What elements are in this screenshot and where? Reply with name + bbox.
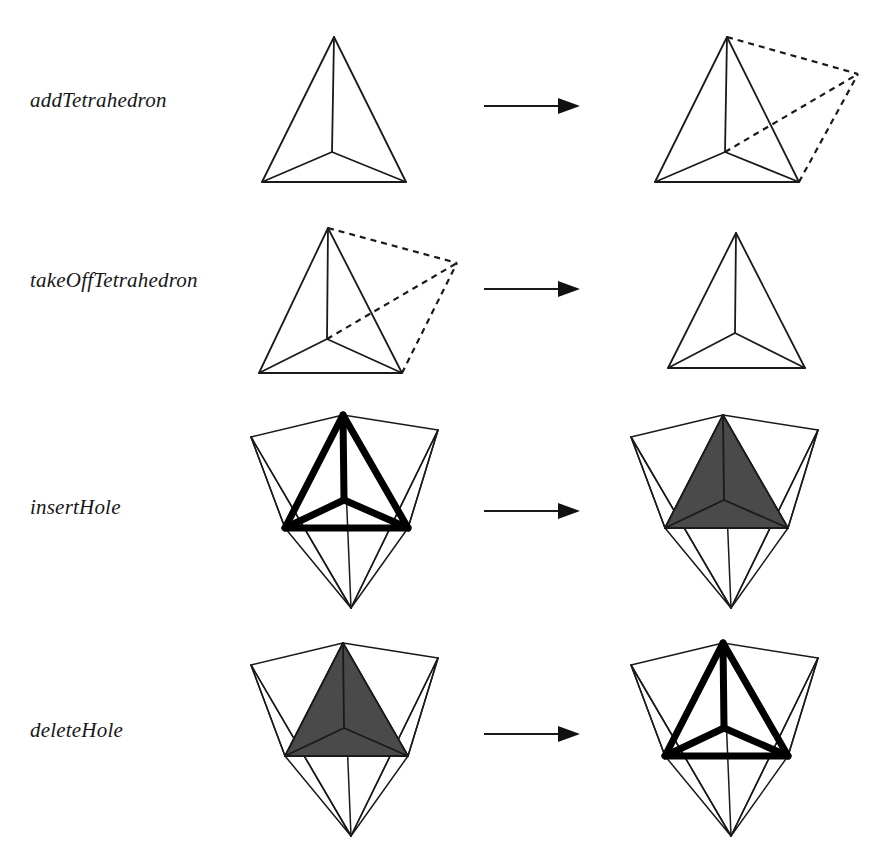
arrow-insert-hole [484, 500, 584, 522]
tetrahedron-wireframe [655, 37, 799, 182]
inner-hole-filled [665, 415, 788, 528]
arrow-add-tetrahedron [484, 95, 584, 117]
caption-fragment [0, 862, 887, 867]
diagram-add-tetrahedron-before [250, 20, 430, 205]
diagram-insert-hole-after [628, 405, 878, 620]
inner-hole-filled [285, 643, 408, 756]
diagram-delete-hole-before [248, 633, 498, 848]
diagram-delete-hole-after [628, 633, 878, 848]
diagram-take-off-tetrahedron-after [650, 228, 840, 383]
operator-label-add-tetrahedron: addTetrahedron [30, 88, 167, 113]
operator-label-delete-hole: deleteHole [30, 718, 123, 743]
operator-label-insert-hole: insertHole [30, 495, 121, 520]
tetrahedron-wireframe [259, 228, 402, 373]
diagram-take-off-tetrahedron-before [232, 215, 482, 395]
tetrahedron-wireframe [262, 37, 406, 182]
operator-label-take-off-tetrahedron: takeOffTetrahedron [30, 268, 198, 293]
arrow-take-off-tetrahedron [484, 278, 584, 300]
dashed-removed-tetrahedron [327, 228, 457, 373]
diagram-insert-hole-before [248, 405, 498, 620]
figure-root: addTetrahedron [0, 0, 887, 867]
diagram-add-tetrahedron-after [650, 20, 880, 205]
tetrahedron-wireframe [668, 233, 805, 368]
arrow-delete-hole [484, 723, 584, 745]
